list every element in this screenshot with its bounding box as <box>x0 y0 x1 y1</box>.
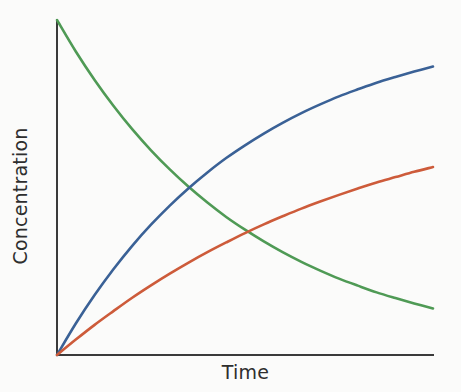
axes-group <box>57 20 433 355</box>
series-line-reactant-decay <box>57 20 433 308</box>
series-group <box>57 20 433 355</box>
x-axis-label: Time <box>57 361 434 383</box>
plot-canvas <box>0 0 461 392</box>
chart-figure: Concentration Time <box>0 0 461 392</box>
series-line-product-minor-rise <box>57 167 433 355</box>
y-axis-label: Concentration <box>0 0 40 392</box>
